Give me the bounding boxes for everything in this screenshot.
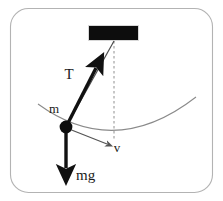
weight-label: mg xyxy=(76,167,96,183)
mass-label: m xyxy=(49,101,59,116)
pendulum-bob xyxy=(60,121,73,134)
ceiling-support-block xyxy=(89,26,138,40)
velocity-label: v xyxy=(114,140,121,155)
tension-label: T xyxy=(64,66,73,82)
pendulum-diagram: T m v mg xyxy=(0,0,223,201)
diagram-canvas: T m v mg xyxy=(0,0,223,201)
